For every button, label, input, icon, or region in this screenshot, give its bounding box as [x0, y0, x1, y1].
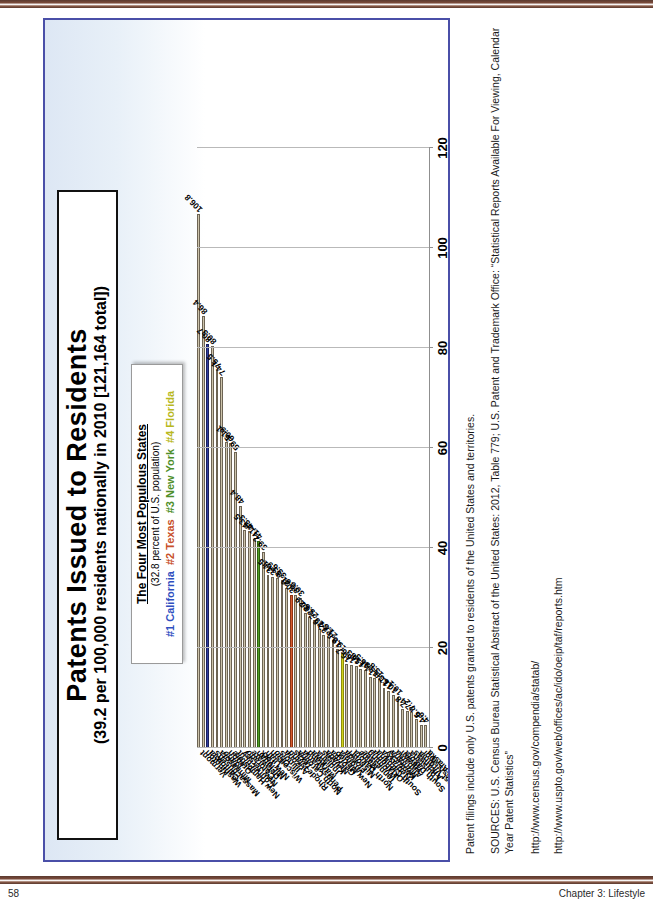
legend-state-new-york: #3 New York [164, 449, 176, 513]
legend-state-texas: #2 Texas [164, 519, 176, 565]
page-rule-top [0, 0, 653, 8]
bar-iowa [308, 617, 311, 748]
bar-row: 43.3Delaware [248, 148, 251, 748]
bar-row: 61.1Oregon [225, 148, 228, 748]
bar-row: 4.6Mississippi [420, 148, 423, 748]
bar-tennessee [359, 669, 362, 748]
bar-row: 11.3Montana [387, 148, 390, 748]
bar-alaska [424, 725, 427, 748]
note-sources: SOURCES: U.S. Census Bureau Statistical … [488, 24, 516, 854]
gridline-120 [197, 147, 429, 148]
bar-row: 13.9South Carolina [373, 148, 376, 748]
bar-row: 23.7Kansas [318, 148, 321, 748]
bar-maine [355, 667, 358, 749]
bar-north-dakota [350, 665, 353, 748]
bar-wisconsin [267, 576, 270, 749]
bar-virginia [336, 649, 339, 748]
page-number: 58 [8, 888, 19, 899]
bar-row: 4.6Alaska [424, 148, 427, 748]
bar-row: 21.5New Mexico [332, 148, 335, 748]
bar-row: 86.4Washington [202, 148, 205, 748]
tick-label-20: 20 [435, 641, 450, 655]
bar-row: 43.5Colorado [243, 148, 246, 748]
bar-row: 39.2Utah [262, 148, 265, 748]
bar-row: 10.6Alabama [392, 148, 395, 748]
bar-row: 7.8South Dakota [401, 148, 404, 748]
tick-20 [429, 647, 433, 648]
bar-row: 41.4New York [257, 148, 260, 748]
bar-row: 41.8Michigan [253, 148, 256, 748]
legend-state-florida: #4 Florida [164, 391, 176, 443]
tick-label-40: 40 [435, 541, 450, 555]
tick-100 [429, 247, 433, 248]
tick-40 [429, 547, 433, 548]
tick-label-0: 0 [435, 744, 450, 751]
bar-florida [341, 653, 344, 748]
bar-row: 34.5Wisconsin [267, 148, 270, 748]
bar-new-mexico [332, 641, 335, 749]
legend-state-list: #1 California#2 Texas#3 New York#4 Flori… [164, 373, 176, 655]
bar-row: 22.1Georgia [327, 148, 330, 748]
page-footer: 58 Chapter 3: Lifestyle [0, 888, 653, 910]
bar-montana [387, 692, 390, 749]
bar-row: 80.3Massachusetts [211, 148, 214, 748]
bar-colorado [243, 531, 246, 749]
chart-plot-area: 106.8Vermont86.4Washington80.7California… [197, 148, 437, 748]
bar-row: 22.6Nevada [322, 148, 325, 748]
bar-south-carolina [373, 679, 376, 749]
bar-row: 10.1Hawaii [397, 148, 400, 748]
note-patent-filings: Patent filings include only U.S. patents… [463, 24, 477, 854]
bar-row: 30.0Pennsylvania [299, 148, 302, 748]
rotated-page-content: Patents Issued to Residents (39.2 per 10… [43, 18, 609, 862]
bar-mississippi [420, 725, 423, 748]
tick-120 [429, 147, 433, 148]
bar-arizona [281, 580, 284, 748]
tick-label-80: 80 [435, 341, 450, 355]
bar-new-york [257, 541, 260, 748]
bar-row: 7.2Arkansas [410, 148, 413, 748]
gridline-100 [197, 247, 429, 248]
bar-missouri [345, 665, 348, 749]
bar-georgia [327, 638, 330, 749]
bar-pennsylvania [299, 598, 302, 748]
page-rule-bottom [0, 876, 653, 884]
gridline-20 [197, 647, 429, 648]
bar-series: 106.8Vermont86.4Washington80.7California… [197, 148, 429, 748]
bar-delaware [248, 532, 251, 749]
bar-illinois [276, 579, 279, 749]
notes-block: Patent filings include only U.S. patents… [463, 24, 574, 854]
bar-new-jersey [239, 506, 242, 748]
note-url-census[interactable]: http://www.census.gov/compendia/statab/ [528, 24, 542, 854]
page-subtitle: (39.2 per 100,000 residents nationally i… [92, 202, 110, 828]
tick-label-120: 120 [435, 137, 450, 159]
bar-row: 59.1Connecticut [234, 148, 237, 748]
bar-row: 75.5Minnesota [216, 148, 219, 748]
bar-row: 7.4Louisiana [406, 148, 409, 748]
legend-note: (32.8 percent of U.S. population) [150, 373, 162, 655]
bar-south-dakota [401, 709, 404, 748]
value-axis-line [429, 148, 430, 748]
bar-row: 25.5Indiana [313, 148, 316, 748]
bar-row: 33.6Arizona [281, 148, 284, 748]
bar-kentucky [383, 689, 386, 749]
note-url-uspto[interactable]: http://www.uspto.gov/web/offices/ac/ido/… [551, 24, 565, 854]
tick-80 [429, 347, 433, 348]
bar-ohio [271, 578, 274, 749]
bar-row: 30.6North Carolina [294, 148, 297, 748]
bar-vermont [197, 214, 200, 748]
gridline-60 [197, 447, 429, 448]
tick-0 [429, 747, 433, 748]
bar-row: 5.8West Virginia [415, 148, 418, 748]
bar-nebraska [378, 679, 381, 748]
bar-row: 31.9Rhode Island [285, 148, 288, 748]
bar-row: 13.8Nebraska [378, 148, 381, 748]
bar-row: 74.1Idaho [220, 148, 223, 748]
tick-60 [429, 447, 433, 448]
gridline-80 [197, 347, 429, 348]
bar-nevada [322, 635, 325, 748]
bar-row: 14.1Oklahoma [369, 148, 372, 748]
bar-row: 26.9Maryland [304, 148, 307, 748]
bar-oregon [225, 443, 228, 749]
bar-row: 34.1Ohio [271, 148, 274, 748]
gridline-40 [197, 547, 429, 548]
